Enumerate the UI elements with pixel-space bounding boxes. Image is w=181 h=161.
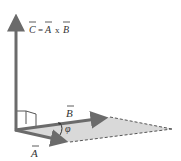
vector-a-label: A [30, 147, 38, 159]
angle-phi-label: φ [65, 123, 71, 134]
equation-label: C = A x B [29, 22, 70, 35]
vector-b-label: B [66, 107, 73, 119]
svg-text:B: B [63, 24, 69, 35]
cross-product-diagram: C = A x B B A φ [0, 0, 181, 161]
svg-text:C: C [29, 24, 36, 35]
svg-text:A: A [44, 24, 52, 35]
svg-text:x: x [55, 25, 60, 35]
svg-text:=: = [38, 25, 43, 35]
